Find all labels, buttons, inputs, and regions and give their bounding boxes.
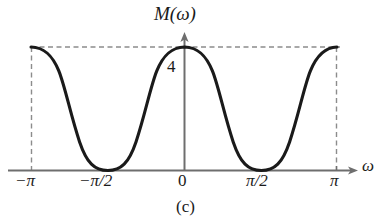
figure-caption: (c) [176,198,195,215]
x-tick-label-zero: 0 [178,172,187,189]
plot-canvas [0,0,381,224]
x-tick-label-neg-pi-half: −π/2 [79,172,112,189]
figure-panel-c: M(ω) ω 4 −π −π/2 0 π/2 π (c) [0,0,381,224]
x-tick-label-pi-half: π/2 [246,172,268,189]
x-tick-label-neg-pi: −π [15,172,35,189]
x-tick-label-pi: π [330,172,339,189]
peak-value-label: 4 [167,58,176,75]
y-axis-title: M(ω) [154,4,196,23]
x-axis-title: ω [362,157,374,174]
y-axis-title-text: M(ω) [154,3,196,24]
